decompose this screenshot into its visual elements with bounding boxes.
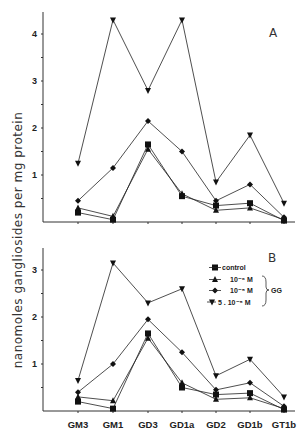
triangle-marker-icon bbox=[75, 204, 81, 210]
legend-group-label: GG bbox=[271, 287, 282, 294]
x-tick-label: GT1b bbox=[272, 419, 296, 430]
inverted-triangle-marker-icon bbox=[75, 378, 81, 384]
legend-10-6: 10⁻⁶ M bbox=[230, 276, 253, 283]
legend: control 10⁻⁶ M 10⁻⁵ M 5 . 10⁻⁵ M GG bbox=[207, 264, 282, 306]
y-tick-label: 2 bbox=[32, 312, 37, 322]
square-marker-icon bbox=[110, 406, 116, 412]
x-tick-label: GD2 bbox=[206, 419, 226, 430]
square-marker-icon bbox=[75, 399, 81, 405]
square-marker-icon bbox=[75, 210, 81, 216]
inverted-triangle-marker-icon bbox=[209, 300, 215, 306]
legend-10-5: 10⁻⁵ M bbox=[230, 287, 253, 294]
y-axis-label: nanomoles gangliosides per mg protein bbox=[11, 112, 25, 369]
legend-bracket bbox=[262, 276, 269, 306]
triangle-marker-icon bbox=[212, 276, 218, 282]
series-line bbox=[78, 121, 284, 217]
inverted-triangle-marker-icon bbox=[110, 17, 116, 23]
series-line bbox=[78, 20, 284, 203]
panel-b-label: B bbox=[268, 251, 276, 265]
inverted-triangle-marker-icon bbox=[179, 17, 185, 23]
x-tick-label: GM3 bbox=[68, 419, 89, 430]
legend-control: control bbox=[222, 264, 246, 271]
diamond-marker-icon bbox=[247, 380, 253, 386]
square-marker-icon bbox=[179, 385, 185, 391]
y-tick-label: 2 bbox=[32, 123, 37, 133]
inverted-triangle-marker-icon bbox=[213, 373, 219, 379]
inverted-triangle-marker-icon bbox=[75, 161, 81, 167]
legend-5x10-5: 5 . 10⁻⁵ M bbox=[218, 299, 251, 306]
panel-a: 1234 bbox=[32, 12, 295, 224]
inverted-triangle-marker-icon bbox=[213, 180, 219, 186]
panel-b: 123GM3GM1GD3GD1aGD2GD1bGT1b bbox=[32, 248, 296, 430]
x-tick-label: GD3 bbox=[138, 419, 158, 430]
y-tick-label: 3 bbox=[32, 76, 37, 86]
y-tick-label: 3 bbox=[32, 265, 37, 275]
inverted-triangle-marker-icon bbox=[145, 300, 151, 306]
x-tick-label: GD1b bbox=[237, 419, 263, 430]
x-tick-label: GM1 bbox=[103, 419, 124, 430]
series-line bbox=[78, 149, 284, 220]
series-line bbox=[78, 263, 284, 397]
ganglioside-chart: 1234 123GM3GM1GD3GD1aGD2GD1bGT1b nanomol… bbox=[0, 0, 307, 439]
y-tick-label: 4 bbox=[32, 29, 37, 39]
y-tick-label: 1 bbox=[32, 359, 37, 369]
inverted-triangle-marker-icon bbox=[145, 88, 151, 94]
series-line bbox=[78, 333, 284, 409]
panel-a-label: A bbox=[269, 26, 278, 40]
x-tick-label: GD1a bbox=[170, 419, 196, 430]
y-tick-label: 1 bbox=[32, 170, 37, 180]
series-line bbox=[78, 338, 284, 409]
inverted-triangle-marker-icon bbox=[281, 394, 287, 400]
inverted-triangle-marker-icon bbox=[281, 201, 287, 207]
